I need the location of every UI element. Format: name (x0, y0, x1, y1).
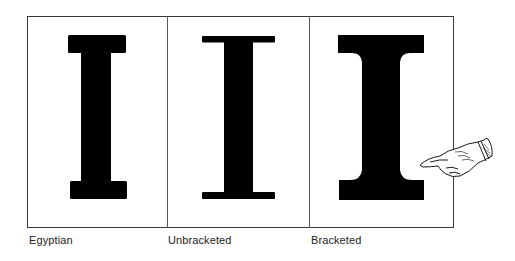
pointing-hand-icon (420, 138, 492, 176)
panel-label-egyptian: Egyptian (29, 234, 73, 246)
panel-label-bracketed: Bracketed (311, 234, 361, 246)
bracketed-i-glyph (338, 35, 424, 200)
serif-glyphs (0, 0, 515, 261)
egyptian-i-glyph (68, 35, 127, 199)
panel-label-unbracketed: Unbracketed (168, 234, 231, 246)
unbracketed-i-glyph (202, 36, 275, 199)
